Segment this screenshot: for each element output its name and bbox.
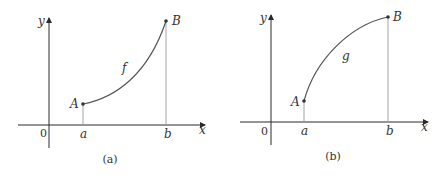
label-point-b: B bbox=[171, 14, 181, 28]
label-x-axis: x bbox=[199, 123, 206, 137]
label-function-f: f bbox=[121, 61, 129, 75]
label-point-a: A bbox=[290, 95, 300, 109]
label-y-axis: y bbox=[37, 14, 45, 28]
label-origin: 0 bbox=[40, 127, 47, 140]
label-point-a: A bbox=[69, 97, 79, 111]
label-x-b: b bbox=[386, 124, 394, 138]
label-x-b: b bbox=[164, 127, 172, 141]
panel-a: A B f 0 a b x y (a) bbox=[18, 14, 206, 166]
label-point-b: B bbox=[392, 10, 402, 24]
label-y-axis: y bbox=[259, 11, 267, 25]
label-x-axis: x bbox=[421, 120, 428, 134]
point-a bbox=[302, 99, 306, 103]
caption-a: (a) bbox=[102, 153, 117, 166]
point-b bbox=[164, 19, 168, 23]
figure: A B f 0 a b x y (a) A B g 0 a b x y (b) bbox=[0, 0, 444, 178]
label-origin: 0 bbox=[261, 125, 268, 138]
caption-b: (b) bbox=[325, 150, 341, 163]
label-function-g: g bbox=[342, 49, 350, 63]
label-x-a: a bbox=[301, 124, 308, 138]
point-a bbox=[81, 102, 85, 106]
panel-b: A B g 0 a b x y (b) bbox=[240, 10, 428, 163]
label-x-a: a bbox=[80, 127, 87, 141]
point-b bbox=[386, 15, 390, 19]
